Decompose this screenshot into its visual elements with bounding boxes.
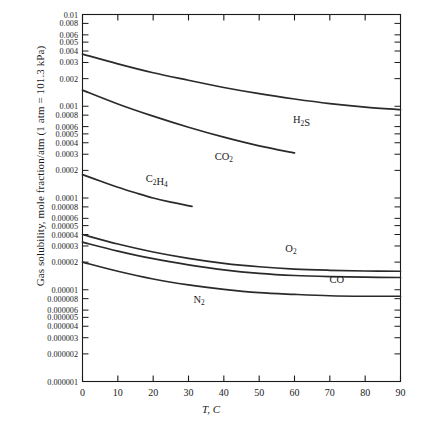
x-tick-label: 30	[184, 387, 194, 398]
y-tick-label: 0.000008	[47, 295, 78, 304]
plot-canvas: 0.010.0080.0060.0050.0040.0030.0020.0010…	[0, 0, 422, 429]
x-tick-label: 10	[113, 387, 123, 398]
y-tick-label: 0.000003	[47, 334, 78, 343]
x-tick-label: 80	[360, 387, 370, 398]
curve-co2	[83, 90, 295, 153]
x-tick-label: 40	[219, 387, 229, 398]
y-tick-label: 0.00004	[51, 231, 78, 240]
y-tick-labels: 0.010.0080.0060.0050.0040.0030.0020.0010…	[47, 11, 78, 387]
axis-ticks	[83, 15, 401, 382]
y-tick-label: 0.00008	[51, 203, 78, 212]
y-tick-label: 0.0002	[55, 166, 78, 175]
y-tick-label: 0.000002	[47, 350, 78, 359]
x-tick-label: 70	[325, 387, 335, 398]
y-tick-label: 0.005	[60, 38, 78, 47]
y-tick-label: 0.01	[64, 11, 78, 20]
y-tick-label: 0.0003	[55, 150, 78, 159]
curve-n2	[83, 262, 401, 296]
y-tick-label: 0.000005	[47, 313, 78, 322]
x-tick-label: 60	[290, 387, 300, 398]
curve-h2s	[83, 54, 401, 109]
y-tick-label: 0.000004	[47, 322, 78, 331]
y-tick-label: 0.004	[60, 47, 78, 56]
y-tick-label: 0.00005	[51, 222, 78, 231]
y-tick-label: 0.00001	[51, 286, 78, 295]
y-tick-label: 0.0005	[55, 130, 78, 139]
x-tick-labels: 0102030405060708090	[80, 387, 406, 398]
curve-o2	[83, 235, 401, 272]
y-tick-label: 0.0001	[55, 194, 78, 203]
y-tick-label: 0.002	[60, 75, 78, 84]
y-tick-label: 0.003	[60, 58, 78, 67]
y-tick-label: 0.0008	[55, 111, 78, 120]
curve-label-h2s: H2S	[293, 114, 310, 127]
curve-c2h4	[83, 175, 193, 207]
y-tick-label: 0.00003	[51, 242, 78, 251]
chart-figure: Gas solubility, mole fraction/atm (1 atm…	[0, 0, 422, 429]
y-tick-label: 0.008	[60, 19, 78, 28]
x-tick-label: 20	[148, 387, 158, 398]
curve-label-co2: CO2	[215, 151, 234, 164]
y-tick-label: 0.0004	[55, 139, 78, 148]
data-curves	[83, 54, 401, 296]
x-tick-label: 0	[80, 387, 85, 398]
curve-label-c2h4: C2H4	[146, 173, 168, 188]
y-tick-label: 0.001	[60, 102, 78, 111]
plot-frame	[83, 15, 401, 382]
y-tick-label: 0.00002	[51, 258, 78, 267]
curve-label-o2: O2	[285, 243, 297, 256]
x-tick-label: 50	[254, 387, 264, 398]
curve-label-n2: N2	[193, 294, 205, 307]
y-tick-label: 0.000001	[47, 378, 78, 387]
curve-label-co: CO	[330, 274, 345, 285]
x-tick-label: 90	[396, 387, 406, 398]
